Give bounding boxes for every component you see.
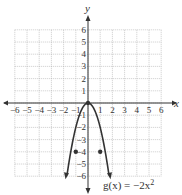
y-tick-label: 4 xyxy=(82,49,87,59)
x-tick-label: −5 xyxy=(22,105,32,115)
y-axis-arrow-down-icon xyxy=(86,188,91,194)
y-tick-label: −5 xyxy=(76,159,86,169)
plotted-point xyxy=(98,150,102,154)
x-tick-label: −3 xyxy=(47,105,57,115)
x-tick-label: 6 xyxy=(159,105,164,115)
y-tick-label: 3 xyxy=(82,61,87,71)
x-tick-label: 2 xyxy=(110,105,115,115)
function-graph: −6−5−4−3−2−1123456654321−1−2−3−4−5−6 x y… xyxy=(0,0,182,195)
y-tick-label: 5 xyxy=(82,37,87,47)
y-axis-label: y xyxy=(84,2,90,14)
plotted-point xyxy=(86,101,90,105)
curve-arrow-left-icon xyxy=(64,172,69,179)
x-tick-label: 4 xyxy=(135,105,140,115)
x-axis-label: x xyxy=(173,97,179,109)
y-tick-label: −6 xyxy=(76,171,86,181)
x-tick-label: 3 xyxy=(122,105,127,115)
x-tick-label: −6 xyxy=(10,105,20,115)
y-tick-label: −3 xyxy=(76,135,86,145)
y-tick-label: 6 xyxy=(82,25,87,35)
y-axis-arrow-up-icon xyxy=(86,15,91,21)
equation-label: g(x) = −2x2 xyxy=(103,178,154,192)
x-axis-arrow-left-icon xyxy=(3,101,8,106)
x-tick-label: 5 xyxy=(147,105,152,115)
y-tick-label: 2 xyxy=(82,74,87,84)
x-tick-label: 1 xyxy=(98,105,103,115)
x-tick-label: −2 xyxy=(59,105,69,115)
y-tick-label: −2 xyxy=(76,122,86,132)
x-tick-label: −4 xyxy=(34,105,44,115)
plotted-point xyxy=(74,150,78,154)
y-tick-label: 1 xyxy=(82,86,87,96)
